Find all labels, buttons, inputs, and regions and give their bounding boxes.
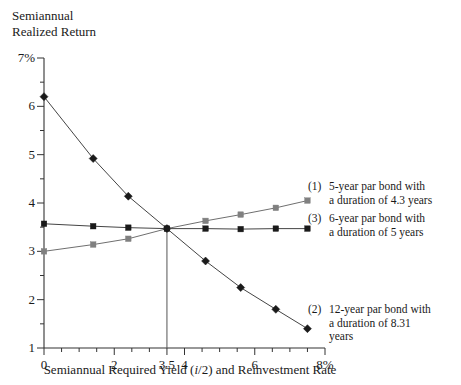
y-tick-label-3: 3 [9, 244, 35, 257]
y-tick-label-1: 1 [9, 341, 35, 354]
series-1-point-6 [273, 205, 279, 211]
legend-label: 5-year par bond with a duration of 4.3 y… [329, 180, 432, 207]
x-axis-title: Semiannual Required Yield (i/2) and Rein… [0, 362, 380, 377]
series-1-point-5 [238, 212, 244, 218]
series-3-point-4 [203, 226, 209, 232]
y-tick-label-5: 5 [9, 148, 35, 161]
series-line-2 [44, 97, 307, 329]
x-axis-title-post: /2) and Reinvestment Rate [198, 362, 336, 377]
series-3-point-2 [126, 225, 132, 231]
series-3-point-3 [164, 226, 170, 232]
series-2-point-5 [237, 284, 245, 292]
legend-entry-1: (1)5-year par bond with a duration of 4.… [308, 180, 432, 207]
series-3-point-6 [273, 226, 279, 232]
legend-entry-3: (3)6-year par bond with a duration of 5 … [308, 212, 425, 239]
series-1-point-1 [90, 242, 96, 248]
series-3-point-0 [41, 221, 47, 227]
y-tick-label-7%: 7% [9, 51, 35, 64]
y-tick-label-4: 4 [9, 196, 35, 209]
legend-entry-2: (2)12-year par bond with a duration of 8… [308, 303, 431, 344]
series-3-point-5 [238, 226, 244, 232]
legend-label: 6-year par bond with a duration of 5 yea… [329, 212, 425, 239]
series-1-point-4 [203, 218, 209, 224]
chart-figure: Semiannual Realized Return 7%654321023.5… [0, 0, 461, 385]
x-axis-title-pre: Semiannual Required Yield ( [44, 362, 195, 377]
y-tick-label-6: 6 [9, 99, 35, 112]
legend-number: (1) [308, 180, 328, 194]
legend-number: (3) [308, 212, 328, 226]
series-3-point-1 [90, 223, 96, 229]
legend-label: 12-year par bond with a duration of 8.31… [329, 303, 431, 344]
legend-number: (2) [308, 303, 328, 317]
y-tick-label-2: 2 [9, 293, 35, 306]
series-1-point-2 [126, 236, 132, 242]
series-1-point-0 [41, 249, 47, 255]
series-2-point-6 [272, 305, 280, 313]
